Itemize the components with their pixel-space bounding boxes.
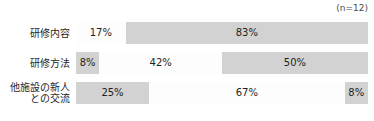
chart-row-label: 他施設の新人との交流 [0, 82, 70, 104]
chart-bar-segment: 67% [149, 82, 345, 104]
stacked-bar-chart: (n=12) 研修内容17%83%研修方法8%42%50%他施設の新人との交流2… [0, 0, 374, 121]
chart-row-label-line: 研修方法 [0, 58, 70, 69]
chart-segment-value: 8% [80, 58, 96, 68]
chart-row: 他施設の新人との交流25%67%8% [0, 82, 374, 104]
chart-bar: 25%67%8% [76, 82, 368, 104]
chart-segment-value: 83% [236, 28, 258, 38]
chart-segment-value: 50% [284, 58, 306, 68]
chart-bar-segment: 8% [345, 82, 368, 104]
chart-rows: 研修内容17%83%研修方法8%42%50%他施設の新人との交流25%67%8% [0, 22, 374, 112]
chart-bar-segment: 8% [76, 52, 99, 74]
chart-segment-value: 67% [236, 88, 258, 98]
chart-segment-value: 8% [348, 88, 364, 98]
chart-bar-segment: 17% [76, 22, 126, 44]
chart-bar-segment: 50% [222, 52, 368, 74]
chart-bar: 17%83% [76, 22, 368, 44]
chart-row-label-line: 他施設の新人 [0, 82, 70, 93]
chart-row-label: 研修内容 [0, 28, 70, 39]
chart-bar-segment: 42% [99, 52, 222, 74]
chart-segment-value: 42% [150, 58, 172, 68]
chart-row-label-line: 研修内容 [0, 28, 70, 39]
chart-row-label-line: との交流 [0, 93, 70, 104]
chart-segment-value: 25% [101, 88, 123, 98]
chart-segment-value: 17% [90, 28, 112, 38]
chart-bar-segment: 25% [76, 82, 149, 104]
chart-bar-segment: 83% [126, 22, 368, 44]
sample-size-annotation: (n=12) [336, 3, 368, 13]
chart-row: 研修内容17%83% [0, 22, 374, 44]
chart-row: 研修方法8%42%50% [0, 52, 374, 74]
chart-bar: 8%42%50% [76, 52, 368, 74]
chart-row-label: 研修方法 [0, 58, 70, 69]
